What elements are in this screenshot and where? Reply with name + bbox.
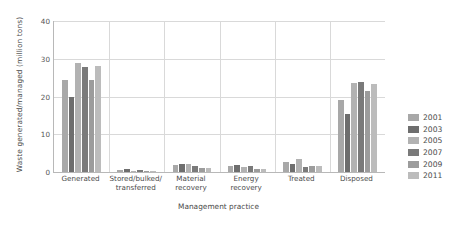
- bar: [365, 91, 371, 172]
- bar-group: [54, 21, 109, 172]
- legend-item[interactable]: 2011: [408, 170, 442, 182]
- x-axis-tick-label: Treated: [274, 175, 329, 192]
- bar: [345, 114, 351, 173]
- bar: [62, 80, 68, 172]
- legend-item[interactable]: 2003: [408, 124, 442, 136]
- x-axis-tick-label: Stored/bulked/transferred: [108, 175, 163, 192]
- bar: [95, 66, 101, 172]
- legend-label: 2007: [423, 148, 442, 157]
- bar: [351, 83, 357, 172]
- bar: [309, 166, 315, 172]
- legend-item[interactable]: 2005: [408, 135, 442, 147]
- legend-swatch: [408, 114, 419, 121]
- bar: [124, 169, 130, 172]
- bar: [371, 84, 377, 172]
- legend-swatch: [408, 172, 419, 179]
- bar: [303, 167, 309, 172]
- bar-group: [164, 21, 219, 172]
- x-axis-tick-label-line: transferred: [108, 184, 163, 193]
- y-axis-tick-label: 30: [41, 54, 50, 63]
- bar: [316, 166, 322, 172]
- bar: [338, 100, 344, 172]
- bar: [358, 82, 364, 172]
- legend-swatch: [408, 161, 419, 168]
- bar: [192, 166, 198, 172]
- x-axis-tick-label-line: Treated: [274, 175, 329, 184]
- bar: [199, 168, 205, 172]
- bar: [234, 165, 240, 172]
- bar: [261, 169, 267, 172]
- bar: [144, 171, 150, 173]
- y-axis-tick-label: 20: [41, 92, 50, 101]
- legend-item[interactable]: 2009: [408, 158, 442, 170]
- bar-group: [109, 21, 164, 172]
- legend-swatch: [408, 137, 419, 144]
- bar: [296, 159, 302, 172]
- legend-label: 2003: [423, 125, 442, 134]
- plot-area: 010203040: [53, 21, 385, 173]
- x-axis-tick-label: Energyrecovery: [219, 175, 274, 192]
- legend-label: 2005: [423, 136, 442, 145]
- bar: [137, 170, 143, 172]
- y-axis-tick-label: 40: [41, 17, 50, 26]
- x-axis-tick-labels: GeneratedStored/bulked/transferredMateri…: [53, 175, 384, 192]
- x-axis-tick-label-line: recovery: [219, 184, 274, 193]
- bar: [69, 97, 75, 173]
- legend-swatch: [408, 149, 419, 156]
- bar-group: [275, 21, 330, 172]
- bar-chart: Waste generated/managed (million tons) 0…: [0, 0, 461, 234]
- y-axis-tick-label: 0: [45, 168, 50, 177]
- bar: [241, 167, 247, 172]
- bar: [186, 164, 192, 172]
- bar: [131, 171, 137, 173]
- x-axis-title: Management practice: [53, 202, 384, 211]
- x-axis-tick-label-line: Disposed: [329, 175, 384, 184]
- legend-swatch: [408, 126, 419, 133]
- gridline: 0: [54, 172, 385, 173]
- bar: [82, 67, 88, 172]
- bar: [179, 164, 185, 172]
- legend-item[interactable]: 2007: [408, 147, 442, 159]
- legend-label: 2001: [423, 113, 442, 122]
- bar-group: [220, 21, 275, 172]
- bar: [290, 164, 296, 172]
- bar: [173, 165, 179, 172]
- legend-item[interactable]: 2001: [408, 112, 442, 124]
- bar-group: [330, 21, 385, 172]
- bar: [248, 166, 254, 172]
- bar-groups: [54, 21, 385, 172]
- x-axis-tick-label: Disposed: [329, 175, 384, 192]
- x-axis-tick-label: Generated: [53, 175, 108, 192]
- bar: [117, 170, 123, 172]
- bar: [283, 162, 289, 172]
- y-axis-title: Waste generated/managed (million tons): [15, 15, 24, 175]
- bar: [75, 63, 81, 172]
- x-axis-tick-label-line: recovery: [163, 184, 218, 193]
- legend-label: 2011: [423, 171, 442, 180]
- x-axis-tick-label: Materialrecovery: [163, 175, 218, 192]
- y-axis-tick-label: 10: [41, 130, 50, 139]
- bar: [254, 169, 260, 172]
- bar: [228, 166, 234, 172]
- bar: [206, 168, 212, 172]
- legend-label: 2009: [423, 160, 442, 169]
- legend: 200120032005200720092011: [408, 112, 442, 182]
- x-axis-tick-label-line: Generated: [53, 175, 108, 184]
- bar: [150, 171, 156, 173]
- bar: [89, 80, 95, 172]
